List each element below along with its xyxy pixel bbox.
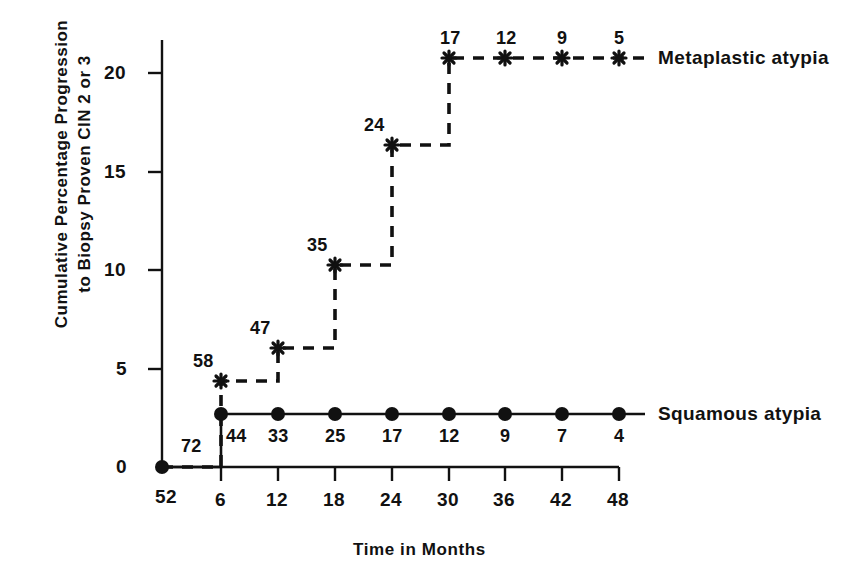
y-tick-label-15: 15 <box>104 162 126 181</box>
squamous-count-36: 9 <box>500 427 510 445</box>
y-tick-label-0: 0 <box>116 457 127 476</box>
metaplastic-count-6: 58 <box>193 352 214 370</box>
x-tick-label-42: 42 <box>550 490 572 509</box>
metaplastic-count-12: 47 <box>250 319 271 337</box>
y-tick-label-10: 10 <box>104 260 126 279</box>
squamous-count-42: 7 <box>557 427 567 445</box>
squamous-count-48: 4 <box>614 427 624 445</box>
metaplastic-count-36: 12 <box>496 29 517 47</box>
marker-dot <box>155 460 169 474</box>
metaplastic-count-48: 5 <box>614 29 624 47</box>
squamous-count-24: 17 <box>382 427 403 445</box>
x-tick-label-30: 30 <box>437 490 459 509</box>
marker-dot <box>612 407 626 421</box>
squamous-count-18: 25 <box>325 427 346 445</box>
chart-figure: 20 15 10 5 0 52 6 12 18 24 30 36 42 48 7… <box>0 0 844 579</box>
y-axis-title-line1: Cumulative Percentage Progression <box>51 0 74 374</box>
series-label-squamous: Squamous atypia <box>658 404 821 423</box>
marker-dot <box>442 407 456 421</box>
marker-star <box>328 258 342 272</box>
marker-star <box>555 51 569 65</box>
marker-dot <box>385 407 399 421</box>
squamous-count-6: 44 <box>226 427 247 445</box>
x-tick-label-origin: 52 <box>155 487 177 506</box>
x-tick-label-24: 24 <box>380 490 402 509</box>
x-tick-label-48: 48 <box>607 490 629 509</box>
x-axis-title: Time in Months <box>353 541 486 558</box>
metaplastic-count-24: 24 <box>364 116 385 134</box>
metaplastic-count-18: 35 <box>307 236 328 254</box>
squamous-count-12: 33 <box>268 427 289 445</box>
marker-star <box>612 51 626 65</box>
metaplastic-count-42: 9 <box>557 29 567 47</box>
metaplastic-count-30: 17 <box>440 29 461 47</box>
x-tick-label-18: 18 <box>323 490 345 509</box>
marker-dot <box>271 407 285 421</box>
y-axis <box>148 40 162 467</box>
marker-star <box>271 341 285 355</box>
series-label-metaplastic: Metaplastic atypia <box>658 48 829 67</box>
marker-star <box>214 374 228 388</box>
marker-star <box>498 51 512 65</box>
x-tick-label-6: 6 <box>215 490 226 509</box>
y-axis-title: Cumulative Percentage Progression to Bio… <box>51 0 99 374</box>
metaplastic-count-0: 72 <box>181 437 202 455</box>
x-tick-label-12: 12 <box>266 490 288 509</box>
marker-star <box>385 138 399 152</box>
y-tick-label-20: 20 <box>104 63 126 82</box>
marker-dot <box>328 407 342 421</box>
plot-canvas <box>0 0 844 579</box>
x-axis <box>162 467 619 481</box>
marker-dot <box>214 407 228 421</box>
y-axis-title-line2: to Biopsy Proven CIN 2 or 3 <box>74 0 97 374</box>
y-tick-label-5: 5 <box>116 359 127 378</box>
squamous-count-30: 12 <box>439 427 460 445</box>
x-tick-label-36: 36 <box>493 490 515 509</box>
series-metaplastic-line <box>162 58 645 467</box>
marker-dot <box>498 407 512 421</box>
marker-star <box>442 51 456 65</box>
marker-dot <box>555 407 569 421</box>
series-metaplastic-markers <box>214 51 626 388</box>
